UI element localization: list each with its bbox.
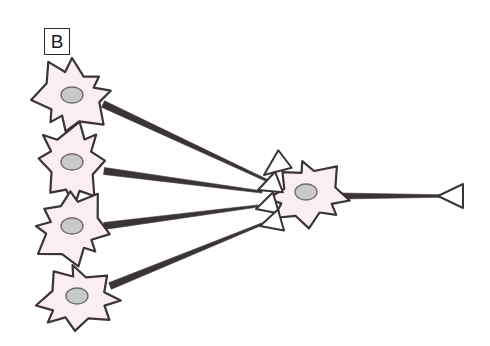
neuron-circuit-diagram [0, 0, 490, 346]
bouton-2 [258, 172, 283, 193]
axon-terminal-bouton [438, 184, 463, 208]
postsynaptic-axon [340, 193, 440, 199]
presynaptic-neuron-2-nucleus [61, 154, 83, 170]
panel-label-box: B [44, 28, 70, 55]
presynaptic-neuron-1-nucleus [61, 87, 83, 103]
presynaptic-neuron-3-nucleus [61, 218, 83, 234]
presynaptic-neuron-1 [31, 58, 111, 131]
presynaptic-neuron-1-axon [102, 101, 269, 182]
presynaptic-neuron-3 [36, 191, 110, 266]
panel-label-text: B [51, 32, 64, 51]
figure-panel-b: B [0, 0, 490, 346]
presynaptic-neuron-3-axon [104, 205, 259, 230]
presynaptic-neuron-2-axon [104, 168, 263, 194]
presynaptic-neuron-4-axon [109, 223, 263, 289]
presynaptic-neuron-4 [36, 265, 121, 331]
postsynaptic-neuron-nucleus [295, 184, 317, 200]
presynaptic-neuron-4-nucleus [66, 288, 88, 304]
soma-layer [31, 58, 350, 331]
